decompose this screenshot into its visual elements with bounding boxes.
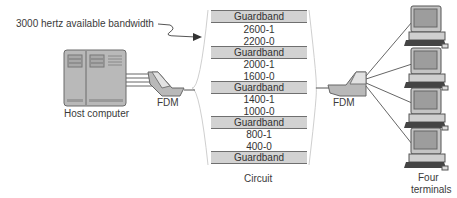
terminal-icon-1 [404, 6, 448, 48]
guardband: Guardband [211, 10, 307, 23]
fdm-left-label: FDM [157, 97, 179, 108]
circuit-outline-left [192, 10, 208, 165]
circuit-label: Circuit [244, 173, 272, 184]
host-computer-icon [64, 50, 126, 106]
arrow-head-icon [193, 33, 202, 41]
bandwidth-annotation: 3000 hertz available bandwidth [16, 18, 154, 29]
fdm-left-icon [148, 72, 184, 96]
host-computer-label: Host computer [64, 108, 129, 119]
host-fdm-links [126, 74, 152, 86]
fdm-right-icon [328, 72, 366, 96]
fdm-right-label: FDM [333, 97, 355, 108]
guardband: Guardband [211, 151, 307, 164]
terminals-label-line2: terminals [411, 184, 452, 195]
terminals-label-line1: Four [418, 172, 439, 183]
circuit-outline-right [309, 10, 316, 165]
terminal-icon-3 [404, 88, 448, 130]
terminal-icon-4 [404, 128, 448, 170]
annotation-arrow [158, 24, 196, 37]
terminal-icon-2 [404, 48, 448, 90]
